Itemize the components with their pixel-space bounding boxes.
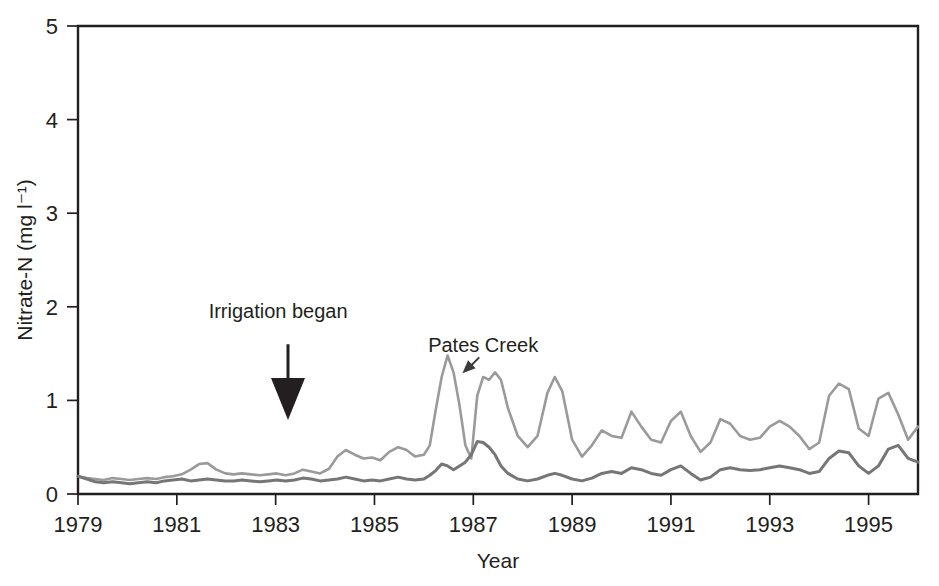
y-tick-label-4: 4 — [46, 108, 58, 133]
annotation-label-pates-creek: Pates Creek — [428, 334, 539, 356]
annotation-group: Irrigation beganPates Creek — [209, 300, 540, 420]
x-axis-ticks — [78, 494, 869, 505]
x-tick-label-1983: 1983 — [251, 512, 300, 537]
x-tick-label-1979: 1979 — [54, 512, 103, 537]
x-axis-title: Year — [477, 549, 519, 572]
data-series-group — [78, 355, 918, 483]
x-tick-label-1989: 1989 — [548, 512, 597, 537]
y-axis-title: Nitrate-N (mg l⁻¹) — [13, 179, 36, 341]
arrow-head-irrigation — [271, 378, 305, 420]
y-tick-label-1: 1 — [46, 388, 58, 413]
x-tick-label-1995: 1995 — [844, 512, 893, 537]
y-tick-label-2: 2 — [46, 295, 58, 320]
plot-frame — [78, 26, 918, 494]
y-tick-label-0: 0 — [46, 482, 58, 507]
y-tick-label-5: 5 — [46, 14, 58, 39]
x-tick-label-1993: 1993 — [745, 512, 794, 537]
figure-container: 012345 197919811983198519871989199119931… — [0, 0, 939, 586]
y-tick-label-3: 3 — [46, 201, 58, 226]
x-axis-tick-labels: 197919811983198519871989199119931995 — [54, 512, 894, 537]
annotation-irrigation-began: Irrigation began — [209, 300, 348, 420]
x-tick-label-1981: 1981 — [152, 512, 201, 537]
annotation-label-irrigation-began: Irrigation began — [209, 300, 348, 322]
y-axis-tick-labels: 012345 — [46, 14, 58, 507]
nitrate-timeseries-chart: 012345 197919811983198519871989199119931… — [0, 0, 939, 586]
y-axis-ticks — [67, 26, 78, 494]
x-tick-label-1987: 1987 — [449, 512, 498, 537]
x-tick-label-1985: 1985 — [350, 512, 399, 537]
x-tick-label-1991: 1991 — [646, 512, 695, 537]
